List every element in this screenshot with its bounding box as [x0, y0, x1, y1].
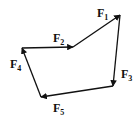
- vector-arrow-f4: [22, 48, 41, 97]
- vector-arrow-f3: [113, 15, 120, 86]
- vector-label-f4: F4: [10, 57, 21, 73]
- vector-arrow-f5: [41, 86, 113, 97]
- vector-label-f3: F3: [121, 67, 132, 83]
- vector-label-f1: F1: [97, 6, 108, 22]
- vector-arrow-f2: [22, 47, 73, 48]
- force-polygon-diagram: F1F2F3F4F5: [0, 0, 140, 120]
- vector-label-f2: F2: [53, 31, 64, 47]
- vector-label-f5: F5: [53, 101, 64, 117]
